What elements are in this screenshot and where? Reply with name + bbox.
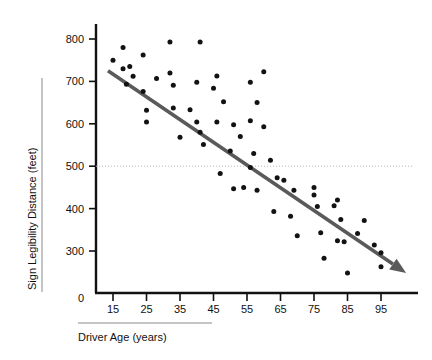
y-tick-label-400: 400 [66,203,84,215]
x-tick-label-75: 75 [308,303,320,315]
scatter-point [154,76,159,81]
scatter-point [188,107,193,112]
scatter-point [332,203,337,208]
scatter-point [171,106,176,111]
scatter-point [291,188,296,193]
scatter-point [355,231,360,236]
scatter-point [338,217,343,222]
scatter-point [342,239,347,244]
scatter-point [131,74,136,79]
scatter-point [248,165,253,170]
scatter-point [167,70,172,75]
y-tick-label-500: 500 [66,160,84,172]
origin-zero-label: 0 [78,292,84,304]
trend-arrowhead-icon [389,259,406,273]
scatter-point [141,53,146,58]
scatter-point [198,130,203,135]
x-axis-title: Driver Age (years) [78,331,167,343]
scatter-point [315,204,320,209]
scatter-point [288,214,293,219]
scatter-point [275,175,280,180]
scatter-point [255,100,260,105]
scatter-point [261,124,266,129]
scatter-point [218,171,223,176]
y-axis-title: Sign Legibility Distance (feet) [26,148,38,290]
scatter-point [318,230,323,235]
scatter-point [372,243,377,248]
y-tick-label-800: 800 [66,33,84,45]
scatter-point [261,69,266,74]
y-tick-labels: 800 700 600 500 400 300 [66,33,84,257]
y-tick-label-300: 300 [66,245,84,257]
scatter-point [201,142,206,147]
scatter-point [255,188,260,193]
scatter-point [167,39,172,44]
x-tick-labels: 15 25 35 45 55 65 75 85 95 [107,303,387,315]
x-tick-label-55: 55 [241,303,253,315]
scatter-point [335,238,340,243]
scatter-point [121,45,126,50]
chart-figure: Sign Legibility Distance (feet) 800 700 … [0,0,432,360]
scatter-point [379,264,384,269]
scatter-point [144,108,149,113]
scatter-point [322,256,327,261]
scatter-point [312,185,317,190]
scatter-point [111,58,116,63]
scatter-point [211,86,216,91]
scatter-point [214,73,219,78]
scatter-point [124,82,129,87]
scatter-point [248,80,253,85]
y-tick-label-600: 600 [66,118,84,130]
scatter-point [194,120,199,125]
scatter-point [121,66,126,71]
scatter-point [231,186,236,191]
x-tick-label-85: 85 [341,303,353,315]
x-tick-label-65: 65 [274,303,286,315]
scatter-point [362,218,367,223]
scatter-point [379,250,384,255]
scatter-point [248,118,253,123]
x-tick-label-95: 95 [375,303,387,315]
scatter-point [268,158,273,163]
x-tick-group [113,293,381,301]
y-tick-label-700: 700 [66,75,84,87]
scatter-plot-svg: Sign Legibility Distance (feet) 800 700 … [0,0,432,360]
scatter-point [238,134,243,139]
scatter-point [214,120,219,125]
x-tick-label-45: 45 [207,303,219,315]
scatter-point [231,122,236,127]
x-tick-label-25: 25 [140,303,152,315]
scatter-point [312,193,317,198]
scatter-point [221,99,226,104]
x-tick-label-35: 35 [174,303,186,315]
scatter-points-group [111,39,384,275]
scatter-point [141,89,146,94]
scatter-point [295,233,300,238]
scatter-point [127,64,132,69]
scatter-point [144,120,149,125]
scatter-point [178,135,183,140]
scatter-point [194,80,199,85]
scatter-point [345,271,350,276]
scatter-point [335,198,340,203]
scatter-point [241,185,246,190]
scatter-point [271,209,276,214]
scatter-point [228,148,233,153]
scatter-point [251,151,256,156]
x-tick-label-15: 15 [107,303,119,315]
scatter-point [171,83,176,88]
scatter-point [198,39,203,44]
scatter-point [281,178,286,183]
